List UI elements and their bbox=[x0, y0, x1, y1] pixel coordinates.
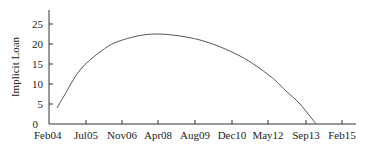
x-tick-label: Nov06 bbox=[107, 129, 137, 141]
line-chart: 0510152025 Feb04Jul05Nov06Apr08Aug09Dec1… bbox=[0, 0, 368, 151]
x-tick-label: Feb04 bbox=[34, 129, 62, 141]
x-tick-label: Feb15 bbox=[328, 129, 356, 141]
y-tick-label: 25 bbox=[32, 18, 44, 30]
x-tick-label: May12 bbox=[252, 129, 283, 141]
x-ticks: Feb04Jul05Nov06Apr08Aug09Dec10May12Sep13… bbox=[34, 120, 356, 141]
y-ticks: 0510152025 bbox=[32, 18, 53, 130]
x-tick-label: Apr08 bbox=[144, 129, 173, 141]
implicit-loan-line bbox=[57, 34, 316, 124]
y-tick-label: 5 bbox=[38, 98, 44, 110]
y-axis-label: Implicit Loan bbox=[9, 36, 21, 97]
x-tick-label: Aug09 bbox=[180, 129, 210, 141]
x-tick-label: Sep13 bbox=[292, 129, 320, 141]
x-tick-label: Dec10 bbox=[218, 129, 247, 141]
y-tick-label: 20 bbox=[32, 38, 44, 50]
y-tick-label: 15 bbox=[32, 58, 44, 70]
x-tick-label: Jul05 bbox=[74, 129, 98, 141]
y-tick-label: 10 bbox=[32, 78, 44, 90]
